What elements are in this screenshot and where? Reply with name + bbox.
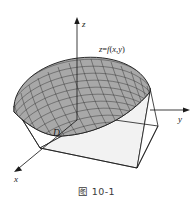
surface-equation-text: z=f(x,y) bbox=[98, 44, 125, 54]
surface-diagram: z y x D z=f(x,y) bbox=[0, 0, 193, 208]
surface-equation-label: z=f(x,y) bbox=[98, 44, 125, 54]
figure-caption: 图 10-1 bbox=[0, 186, 193, 198]
z-axis-arrowhead bbox=[74, 17, 79, 24]
x-axis-arrowhead bbox=[14, 166, 22, 172]
domain-region-label: D bbox=[52, 128, 60, 138]
y-axis-arrowhead bbox=[183, 107, 190, 112]
x-axis-label: x bbox=[13, 174, 18, 184]
figure-container: z y x D z=f(x,y) 图 10-1 bbox=[0, 0, 193, 208]
y-axis-label: y bbox=[177, 114, 182, 124]
eq-close-paren: ) bbox=[122, 44, 125, 54]
z-axis-label: z bbox=[81, 19, 86, 29]
